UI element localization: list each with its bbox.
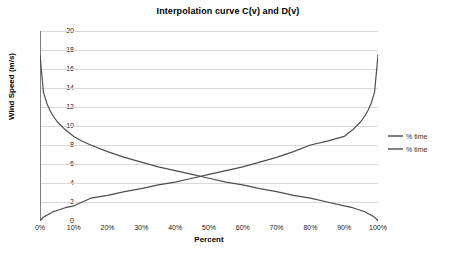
legend-item[interactable]: % time [388,143,454,155]
legend-line-swatch [388,135,403,137]
x-tick-label: 100% [358,224,398,232]
x-axis-title: Percent [40,235,378,244]
legend-label: % time [406,146,427,153]
plot-area [40,31,378,221]
chart-legend: % time% time [388,130,454,156]
series-line-1 [40,55,378,221]
series-line-0 [40,55,378,221]
gridlines [40,32,378,222]
data-series-group [40,55,378,221]
plot-canvas [40,31,378,221]
legend-item[interactable]: % time [388,130,454,142]
y-axis-title: Wind Speed (m/s) [7,22,16,152]
legend-label: % time [406,133,427,140]
chart-title: Interpolation curve C(v) and D(v) [0,6,456,16]
wind-speed-interpolation-chart: Interpolation curve C(v) and D(v) Wind S… [0,0,456,255]
legend-line-swatch [388,148,403,150]
